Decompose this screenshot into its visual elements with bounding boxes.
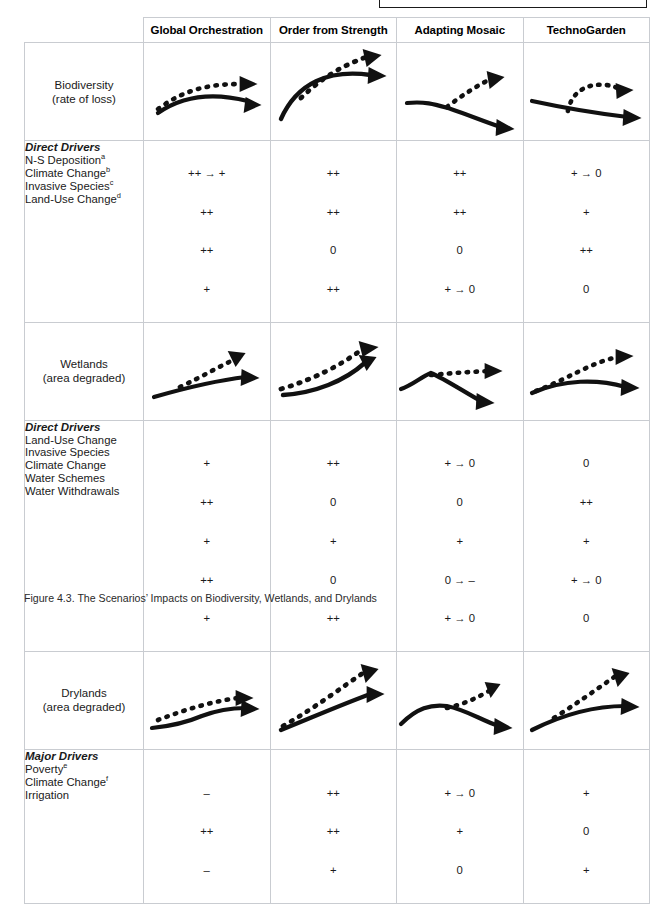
footnote-marker: f (106, 774, 108, 783)
driver-values-wetlands-technogarden: 0 ++ + + → 0 0 (523, 420, 650, 651)
driver-name: Povertye (25, 763, 143, 776)
driver-value: ++ (144, 825, 270, 838)
driver-value: + → 0 (397, 787, 523, 800)
driver-value: + → 0 (524, 574, 650, 587)
column-header-order-from-strength: Order from Strength (270, 18, 397, 43)
driver-value: 0 (271, 496, 397, 509)
driver-values-wetlands-global-orchestration: + ++ + ++ + (144, 420, 271, 651)
driver-value: 0 (524, 612, 650, 625)
row-label-wetlands: Wetlands (area degraded) (25, 322, 144, 420)
row-label-line1: Wetlands (25, 357, 143, 371)
driver-value: + (271, 864, 397, 877)
driver-name: N-S Depositiona (25, 154, 143, 167)
driver-value: + (144, 457, 270, 470)
driver-values-drylands-order-from-strength: ++ ++ + (270, 749, 397, 903)
driver-value: ++ (271, 457, 397, 470)
drivers-list-biodiversity: Direct Drivers N-S Depositiona Climate C… (25, 141, 144, 323)
driver-value: ++ (144, 244, 270, 257)
row-label-line1: Drylands (25, 686, 143, 700)
chart-biodiversity-order-from-strength (270, 43, 397, 141)
drivers-row-drylands: Major Drivers Povertye Climate Changef I… (25, 749, 650, 903)
driver-value: ++ (144, 206, 270, 219)
drivers-row-wetlands: Direct Drivers Land-Use Change Invasive … (25, 420, 650, 651)
driver-value: + (524, 535, 650, 548)
driver-value: 0 (524, 283, 650, 296)
chart-biodiversity-technogarden (523, 43, 650, 141)
driver-value: 0 (524, 825, 650, 838)
driver-value: ++ (271, 612, 397, 625)
driver-value: + (524, 206, 650, 219)
driver-value: ++ (397, 206, 523, 219)
row-label-line2: (rate of loss) (25, 92, 143, 106)
driver-value: ++ (524, 496, 650, 509)
row-label-line1: Biodiversity (25, 78, 143, 92)
driver-name: Land-Use Changed (25, 193, 143, 206)
corner-cell (25, 18, 144, 43)
driver-value: + (524, 864, 650, 877)
column-header-global-orchestration: Global Orchestration (144, 18, 271, 43)
drivers-list-drylands: Major Drivers Povertye Climate Changef I… (25, 749, 144, 903)
driver-name: Invasive Speciesc (25, 180, 143, 193)
driver-value: + (144, 535, 270, 548)
chart-biodiversity-adapting-mosaic (397, 43, 524, 141)
column-header-adapting-mosaic: Adapting Mosaic (397, 18, 524, 43)
driver-value: 0 (524, 457, 650, 470)
driver-name: Climate Change (25, 459, 143, 472)
chart-row-wetlands: Wetlands (area degraded) (25, 322, 650, 420)
driver-value: ++ (397, 167, 523, 180)
driver-name: Climate Changeb (25, 167, 143, 180)
driver-values-wetlands-adapting-mosaic: + → 0 0 + 0 → – + → 0 (397, 420, 524, 651)
stray-border-box-fragment (379, 0, 647, 8)
driver-value: 0 (397, 496, 523, 509)
driver-values-drylands-adapting-mosaic: + → 0 + 0 (397, 749, 524, 903)
driver-name: Water Schemes (25, 472, 143, 485)
row-label-line2: (area degraded) (25, 700, 143, 714)
driver-value: + (524, 787, 650, 800)
scenarios-impact-table: Global Orchestration Order from Strength… (24, 17, 650, 904)
driver-value: 0 (397, 864, 523, 877)
driver-value: 0 → – (397, 574, 523, 587)
driver-value: – (144, 864, 270, 877)
driver-value: ++ (271, 206, 397, 219)
driver-value: + (144, 283, 270, 296)
chart-drylands-order-from-strength (270, 651, 397, 749)
driver-values-biodiversity-adapting-mosaic: ++ ++ 0 + → 0 (397, 141, 524, 323)
driver-value: ++ (144, 574, 270, 587)
chart-wetlands-technogarden (523, 322, 650, 420)
driver-value: 0 (271, 244, 397, 257)
driver-value: + → 0 (397, 457, 523, 470)
column-header-technogarden: TechnoGarden (523, 18, 650, 43)
driver-value: + → 0 (397, 612, 523, 625)
driver-name: Land-Use Change (25, 434, 143, 447)
driver-value: ++ (524, 244, 650, 257)
driver-value: + → 0 (397, 283, 523, 296)
chart-row-drylands: Drylands (area degraded) (25, 651, 650, 749)
driver-value: – (144, 787, 270, 800)
drivers-heading-drylands: Major Drivers (25, 750, 143, 763)
chart-drylands-global-orchestration (144, 651, 271, 749)
chart-wetlands-global-orchestration (144, 322, 271, 420)
driver-value: + (271, 535, 397, 548)
driver-value: + (144, 612, 270, 625)
driver-value: + (397, 535, 523, 548)
drivers-heading-wetlands: Direct Drivers (25, 421, 143, 434)
footnote-marker: e (63, 761, 67, 770)
chart-wetlands-order-from-strength (270, 322, 397, 420)
driver-value: ++ (271, 787, 397, 800)
chart-drylands-adapting-mosaic (397, 651, 524, 749)
driver-name: Irrigation (25, 789, 143, 802)
figure-caption: Figure 4.3. The Scenarios’ Impacts on Bi… (24, 592, 644, 605)
drivers-list-wetlands: Direct Drivers Land-Use Change Invasive … (25, 420, 144, 651)
driver-values-biodiversity-order-from-strength: ++ ++ 0 ++ (270, 141, 397, 323)
driver-values-biodiversity-technogarden: + → 0 + ++ 0 (523, 141, 650, 323)
driver-values-wetlands-order-from-strength: ++ 0 + 0 ++ (270, 420, 397, 651)
driver-value: ++ (271, 283, 397, 296)
driver-values-biodiversity-global-orchestration: ++ → + ++ ++ + (144, 141, 271, 323)
driver-name: Climate Changef (25, 776, 143, 789)
chart-row-biodiversity: Biodiversity (rate of loss) (25, 43, 650, 141)
footnote-marker: b (106, 165, 110, 174)
driver-values-drylands-global-orchestration: – ++ – (144, 749, 271, 903)
driver-value: ++ (271, 167, 397, 180)
driver-values-drylands-technogarden: + 0 + (523, 749, 650, 903)
